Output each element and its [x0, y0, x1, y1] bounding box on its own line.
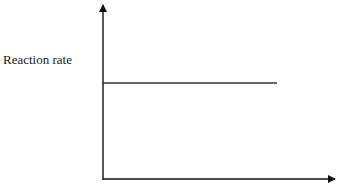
- chart-plot: [0, 0, 339, 192]
